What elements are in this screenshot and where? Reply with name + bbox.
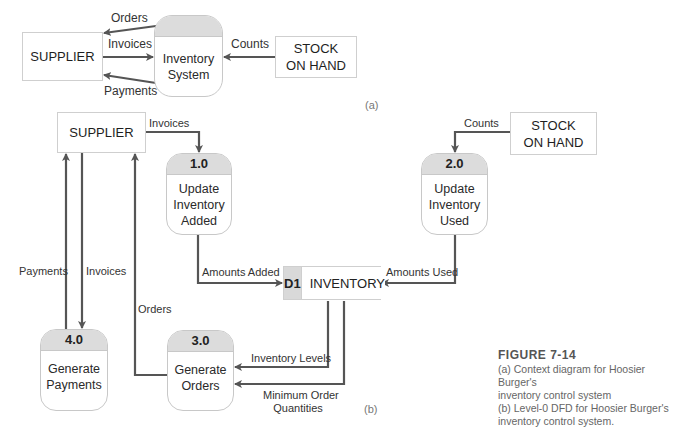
flow-label-counts: Counts [231, 38, 269, 51]
flow-label-line: Minimum Order [263, 389, 333, 402]
flow-payments-arrow [104, 75, 156, 83]
data-store-d1-inventory: D1 INVENTORY [283, 266, 381, 300]
entity-label-line: STOCK [286, 40, 346, 57]
subfigure-label-a: (a) [365, 99, 378, 111]
process-1-update-inventory-added: 1.0 Update Inventory Added [166, 153, 232, 235]
caption-line: inventory control system. [498, 415, 678, 428]
flow-label-orders: Orders [111, 12, 148, 25]
flow-label-invoices-to-1: Invoices [149, 117, 189, 130]
process-label-line: Inventory [173, 197, 224, 213]
entity-label: SUPPLIER [69, 124, 133, 141]
flow-label-line: Quantities [263, 402, 333, 415]
process-id: 2.0 [422, 154, 487, 175]
figure-number: FIGURE 7-14 [498, 348, 678, 363]
flow-label-payments: Payments [104, 85, 157, 98]
entity-label-line: ON HAND [524, 134, 584, 151]
data-store-id: D1 [284, 267, 302, 299]
process-4-generate-payments: 4.0 Generate Payments [40, 329, 108, 411]
process-body: Inventory System [155, 37, 222, 96]
process-label-line: Orders [174, 378, 226, 394]
flow-orders-arrow [104, 26, 156, 33]
caption-line: (b) Level-0 DFD for Hoosier Burger's [498, 402, 678, 415]
data-store-name: INVENTORY [302, 267, 385, 299]
flow-label-payments-b: Payments [19, 265, 68, 278]
flow-label-amounts-used: Amounts Used [386, 266, 458, 279]
process-label-line: Used [429, 213, 480, 229]
flow-label-invoices: Invoices [108, 38, 152, 51]
process-body: Update Inventory Used [422, 175, 487, 234]
flow-label-amounts-added: Amounts Added [202, 266, 280, 279]
flow-orders-arrow-b [135, 154, 167, 375]
process-label-line: Inventory [163, 51, 214, 67]
flow-label-min-order-quantities: Minimum Order Quantities [263, 389, 333, 415]
process-body: Generate Orders [168, 352, 233, 410]
level0-stock-on-hand-entity: STOCK ON HAND [510, 112, 597, 155]
level0-supplier-entity: SUPPLIER [57, 112, 146, 153]
process-label-line: Update [173, 181, 224, 197]
flow-label-orders-b: Orders [138, 303, 172, 316]
process-id: 3.0 [168, 331, 233, 352]
flow-counts-to-2-arrow [455, 132, 510, 152]
process-label-line: Payments [46, 377, 102, 393]
figure-caption: FIGURE 7-14 (a) Context diagram for Hoos… [498, 348, 678, 428]
process-label-line: Update [429, 181, 480, 197]
caption-line: inventory control system [498, 389, 678, 402]
flow-label-counts-to-2: Counts [464, 117, 499, 130]
entity-label-line: ON HAND [286, 57, 346, 74]
process-id: 4.0 [41, 330, 107, 351]
process-label-line: Inventory [429, 197, 480, 213]
flow-label-invoices-to-4: Invoices [86, 265, 126, 278]
context-stock-on-hand-entity: STOCK ON HAND [275, 36, 357, 78]
context-inventory-system-process: Inventory System [154, 15, 223, 97]
context-supplier-entity: SUPPLIER [22, 32, 103, 81]
process-label-line: System [163, 67, 214, 83]
entity-label-line: STOCK [524, 117, 584, 134]
caption-line: (a) Context diagram for Hoosier Burger's [498, 363, 678, 389]
process-body: Generate Payments [41, 351, 107, 410]
flow-invoices-to-1-arrow [146, 132, 199, 152]
entity-label: SUPPLIER [30, 48, 94, 65]
process-id: 1.0 [167, 154, 231, 175]
subfigure-label-b: (b) [364, 403, 377, 415]
process-label-line: Generate [46, 361, 102, 377]
process-2-update-inventory-used: 2.0 Update Inventory Used [421, 153, 488, 235]
flow-label-inventory-levels: Inventory Levels [251, 352, 331, 365]
process-3-generate-orders: 3.0 Generate Orders [167, 330, 234, 411]
process-label-line: Added [173, 213, 224, 229]
process-label-line: Generate [174, 362, 226, 378]
process-header [155, 16, 222, 37]
process-body: Update Inventory Added [167, 175, 231, 234]
